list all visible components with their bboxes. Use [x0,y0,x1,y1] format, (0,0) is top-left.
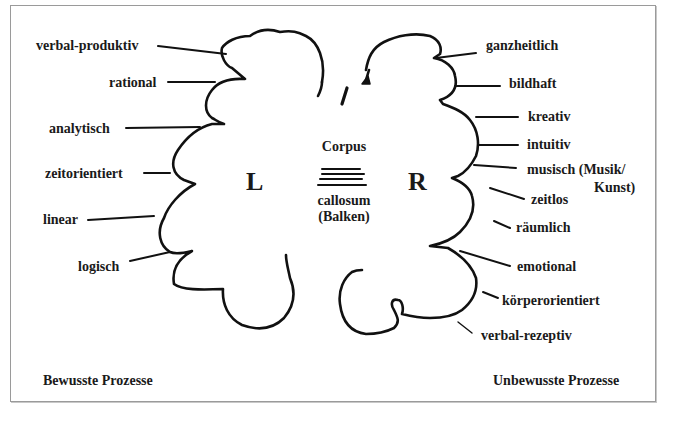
footer-bewusste-prozesse: Bewusste Prozesse [43,373,153,389]
label-analytisch: analytisch [49,121,110,137]
label-raeumlich: räumlich [516,220,570,236]
right-hemisphere-letter: R [408,168,427,196]
label-ganzheitlich: ganzheitlich [486,38,558,54]
label-verbal-produktiv: verbal-produktiv [36,38,138,54]
label-intuitiv: intuitiv [527,137,571,153]
label-kreativ: kreativ [528,109,571,125]
corpus-callosum-lines [318,169,366,185]
callosum-label: callosum [304,193,384,209]
label-koerperorientiert: körperorientiert [502,293,600,309]
label-verbal-rezeptiv: verbal-rezeptiv [481,328,572,344]
corpus-label: Corpus [312,139,376,155]
label-kunst: Kunst) [594,180,635,196]
label-logisch: logisch [78,259,119,275]
left-hemisphere-letter: L [246,168,263,196]
footer-unbewusste-prozesse: Unbewusste Prozesse [493,373,619,389]
balken-label: (Balken) [304,209,384,225]
left-hemisphere-outline [160,30,323,328]
label-zeitorientiert: zeitorientiert [45,166,123,182]
label-zeitlos: zeitlos [531,192,568,208]
label-emotional: emotional [517,259,576,275]
label-linear: linear [43,212,78,228]
label-rational: rational [109,75,156,91]
label-musisch: musisch (Musik/ [527,162,625,178]
label-bildhaft: bildhaft [509,76,556,92]
